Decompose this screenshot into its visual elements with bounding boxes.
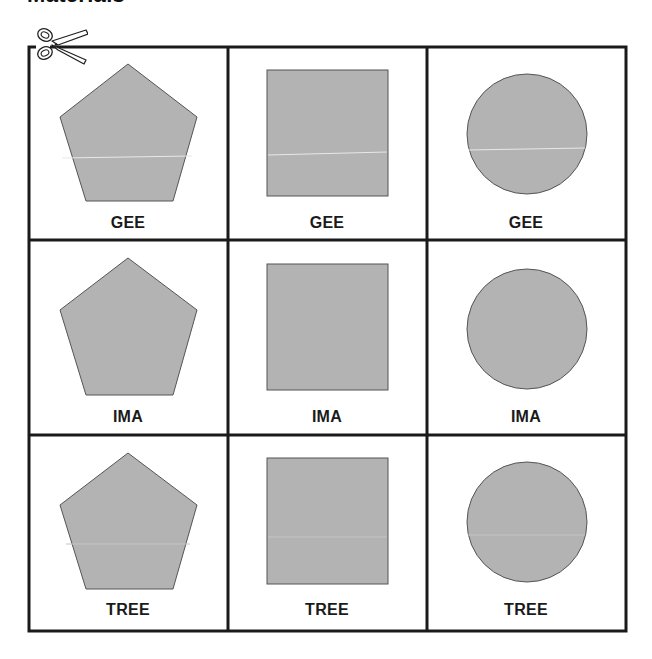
card-label: GEE	[29, 214, 227, 232]
card-label: IMA	[228, 408, 426, 426]
pentagon-shape	[60, 258, 197, 395]
card-label: TREE	[427, 601, 625, 619]
card-label: TREE	[228, 601, 426, 619]
circle-shape	[467, 74, 587, 194]
cutout-grid	[0, 0, 652, 659]
card-label: GEE	[228, 214, 426, 232]
scissors-icon	[36, 26, 88, 68]
card-label: TREE	[29, 601, 227, 619]
square-shape	[267, 70, 388, 196]
circle-shape	[467, 269, 587, 389]
square-shape	[267, 264, 388, 390]
square-shape	[267, 458, 388, 584]
pentagon-shape	[60, 64, 197, 201]
circle-shape	[467, 462, 587, 582]
card-label: IMA	[29, 408, 227, 426]
pentagon-shape	[60, 453, 197, 589]
card-label: GEE	[427, 214, 625, 232]
card-label: IMA	[427, 408, 625, 426]
